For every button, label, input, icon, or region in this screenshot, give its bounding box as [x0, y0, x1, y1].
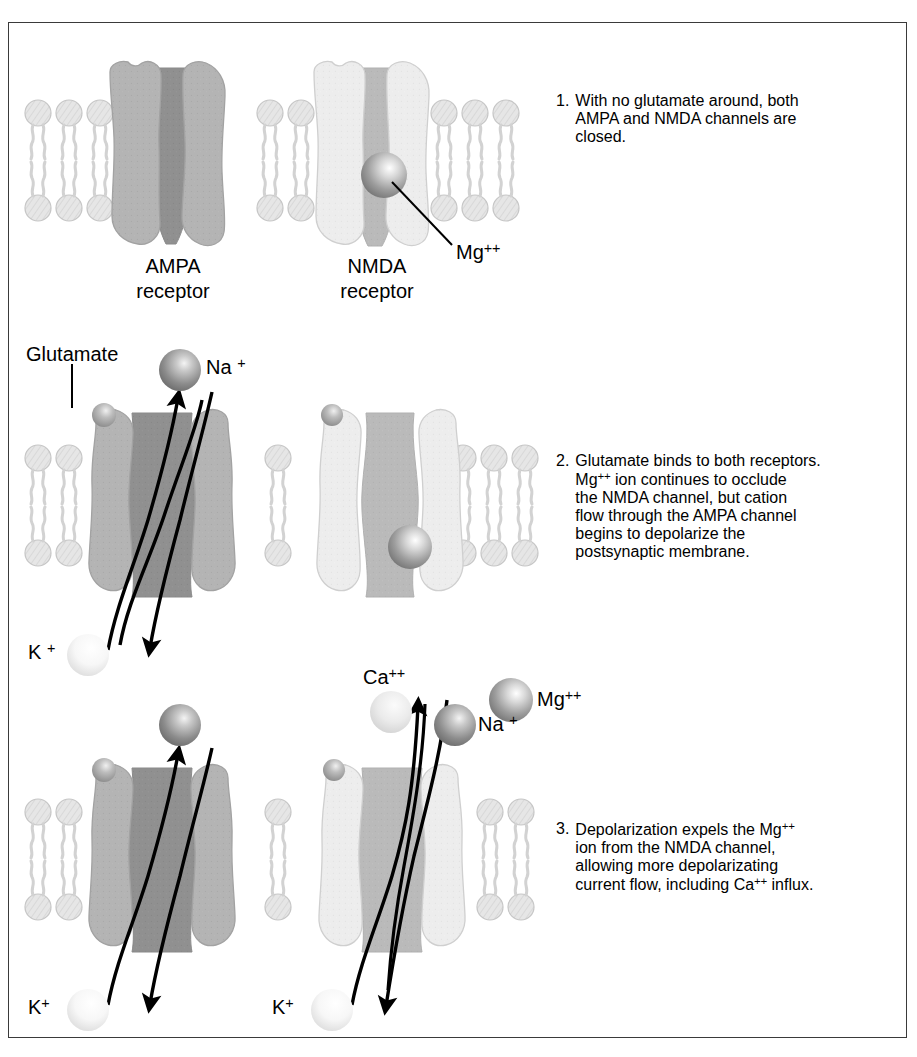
panel-1-group — [25, 61, 519, 246]
caption-1-text: With no glutamate around, bothAMPA and N… — [575, 92, 901, 146]
potassium-ion-label-panel2: K + — [28, 640, 55, 664]
ampa-receptor-label-line1: AMPA — [118, 255, 228, 278]
nmda-receptor-label-line1: NMDA — [322, 255, 432, 278]
caption-3-text: Depolarization expels the Mg++ion from t… — [575, 820, 908, 894]
sodium-ion-sphere-nmda — [434, 704, 476, 746]
panel-1-ampa-receptor — [110, 61, 225, 245]
panel-2-group — [25, 349, 538, 676]
magnesium-ion-label: Mg++ — [456, 240, 500, 264]
caption-2: 2. Glutamate binds to both receptors.Mg+… — [556, 452, 908, 561]
caption-2-text: Glutamate binds to both receptors.Mg++ i… — [575, 452, 908, 561]
potassium-ion-label-right: K+ — [272, 995, 293, 1019]
ampa-pore-open — [128, 768, 197, 952]
nmda-receptor-label-line2: receptor — [322, 280, 432, 303]
potassium-ion-sphere-right — [311, 989, 353, 1031]
glutamate-molecule-ampa — [92, 403, 116, 427]
caption-3-number: 3. — [556, 820, 575, 894]
caption-3: 3. Depolarization expels the Mg++ion fro… — [556, 820, 908, 894]
sodium-ion-label-panel2: Na + — [206, 355, 245, 379]
panel-2-nmda-receptor — [317, 404, 463, 597]
glutamate-label: Glutamate — [26, 343, 118, 366]
sodium-ion-sphere-ampa — [159, 704, 201, 746]
panel-1-membrane — [25, 100, 519, 221]
panel-3-ampa-receptor — [89, 758, 235, 952]
potassium-ion-sphere — [67, 634, 109, 676]
potassium-ion-sphere-left — [67, 989, 109, 1031]
glutamate-molecule-ampa — [92, 758, 116, 782]
magnesium-ion-sphere — [388, 525, 432, 569]
potassium-ion-label-left: K+ — [28, 995, 49, 1019]
caption-1: 1. With no glutamate around, bothAMPA an… — [556, 92, 901, 146]
sodium-ion-label-panel3: Na + — [478, 712, 517, 736]
caption-2-number: 2. — [556, 452, 575, 561]
calcium-ion-label: Ca++ — [363, 665, 405, 689]
ampa-receptor-label-line2: receptor — [118, 280, 228, 303]
panel-3-group — [25, 678, 534, 1031]
panel-1-nmda-receptor — [314, 61, 429, 246]
nmda-pore-closed — [362, 413, 419, 597]
calcium-ion-sphere — [370, 691, 412, 733]
glutamate-molecule-nmda — [323, 759, 345, 781]
panel-2-ampa-receptor — [89, 403, 235, 597]
caption-1-number: 1. — [556, 92, 575, 146]
panel-3-nmda-receptor — [319, 759, 465, 952]
membrane-lower-leaflet — [25, 162, 519, 221]
figure-root: AMPA receptor NMDA receptor Mg++ Glutama… — [0, 0, 917, 1057]
magnesium-ion-label-panel3: Mg++ — [537, 687, 581, 711]
sodium-ion-sphere — [159, 349, 201, 391]
glutamate-molecule-nmda — [321, 404, 343, 426]
ampa-pore-open — [128, 413, 197, 597]
membrane-upper-leaflet — [25, 100, 519, 159]
